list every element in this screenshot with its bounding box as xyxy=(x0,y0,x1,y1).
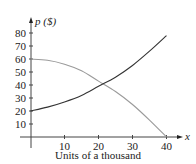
y-tick-label: 60 xyxy=(15,53,27,65)
y-tick-label: 30 xyxy=(15,92,27,104)
chart: 1020304050607080 10203040 p ($) x Units … xyxy=(0,0,196,164)
x-axis-var: x xyxy=(184,130,190,142)
y-axis-label: p ($) xyxy=(34,15,56,28)
y-tick-label: 70 xyxy=(15,40,27,52)
demand-curve xyxy=(31,59,167,137)
y-tick-label: 40 xyxy=(15,79,27,91)
y-tick-label: 50 xyxy=(15,66,27,78)
y-tick-label: 10 xyxy=(15,118,27,130)
x-axis-arrow-icon xyxy=(177,135,183,139)
x-tick-label: 40 xyxy=(161,140,173,152)
supply-curve xyxy=(31,36,167,111)
x-axis-label: Units of a thousand xyxy=(55,149,141,161)
y-axis-ticks: 1020304050607080 xyxy=(15,27,33,130)
y-tick-label: 80 xyxy=(15,27,27,39)
y-axis-arrow-icon xyxy=(29,17,33,23)
y-tick-label: 20 xyxy=(15,105,27,117)
